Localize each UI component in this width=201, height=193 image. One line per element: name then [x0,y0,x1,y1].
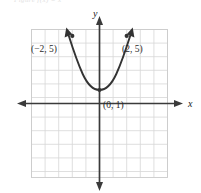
y-axis-down-arrow [96,182,103,191]
x-axis-right-arrow [174,100,183,107]
coordinate-plane-figure: Figure f(x) = x [0,0,201,193]
point-marker-vertex [98,88,102,92]
cropped-caption-text: Figure f(x) = x [14,0,62,4]
point-marker-right [125,34,129,38]
y-axis-label: y [92,8,98,19]
parabola-graph: (−2, 5) (2, 5) (0, 1) x y [0,0,201,193]
right-point-label: (2, 5) [122,44,143,55]
left-point-label: (−2, 5) [31,44,57,55]
vertex-label: (0, 1) [103,100,124,111]
x-axis-left-arrow [17,100,26,107]
point-marker-left [70,34,74,38]
x-axis-label: x [187,98,193,109]
